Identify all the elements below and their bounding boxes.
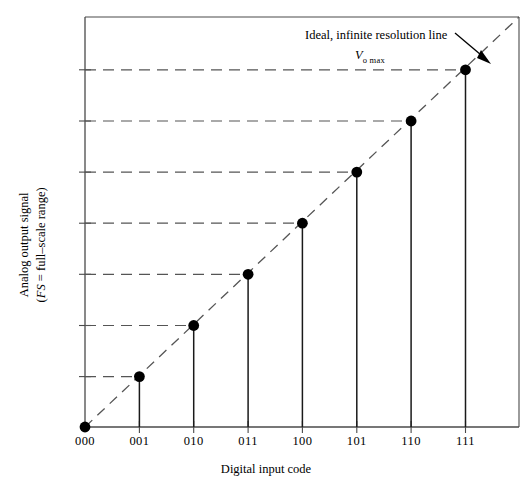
- xtick-label-001: 001: [129, 434, 149, 449]
- xtick-label-101: 101: [347, 434, 367, 449]
- data-point-101: [351, 167, 362, 178]
- plot-canvas: [0, 0, 532, 489]
- vo-max-subscript: o max: [363, 55, 386, 65]
- y-axis-title-line2: (FS = full–scale range): [33, 150, 50, 340]
- y-axis-title-fs-symbol: FS: [34, 284, 48, 298]
- y-axis-title-line1: Analog output signal: [17, 192, 31, 297]
- ideal-line-annotation: Ideal, infinite resolution line: [305, 28, 447, 43]
- vertical-stems: [139, 70, 465, 427]
- xtick-label-100: 100: [292, 434, 312, 449]
- data-point-111: [460, 64, 471, 75]
- xtick-label-111: 111: [456, 434, 475, 449]
- data-point-100: [297, 218, 308, 229]
- data-point-001: [134, 371, 145, 382]
- y-axis-title-paren-open: (: [34, 298, 48, 302]
- y-axis-title: Analog output signal (FS = full–scale ra…: [16, 150, 50, 340]
- dac-transfer-characteristic-figure: FS 7 8 FS 3 4 FS 5 8 FS: [0, 0, 532, 489]
- xtick-label-110: 110: [401, 434, 421, 449]
- horizontal-guide-lines: [85, 70, 466, 377]
- data-point-markers: [80, 64, 471, 432]
- x-axis-title: Digital input code: [0, 462, 532, 477]
- vo-max-symbol: V: [355, 48, 363, 62]
- xtick-label-011: 011: [238, 434, 258, 449]
- data-point-010: [188, 320, 199, 331]
- data-point-000: [80, 422, 91, 433]
- data-point-011: [243, 269, 254, 280]
- vo-max-annotation: Vo max: [355, 48, 385, 65]
- data-point-110: [406, 116, 417, 127]
- y-axis-title-range-text: = full–scale range): [34, 187, 48, 284]
- xtick-label-000: 000: [75, 434, 95, 449]
- xtick-label-010: 010: [184, 434, 204, 449]
